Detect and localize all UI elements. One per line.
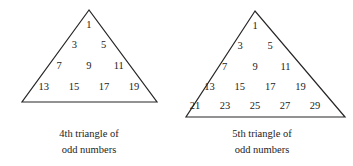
number-3: 3 (60, 40, 89, 51)
number-row: 7911 (44, 61, 134, 72)
number-9: 9 (240, 62, 271, 73)
number-1: 1 (240, 21, 270, 32)
triangle-shape (22, 10, 157, 102)
number-row: 2123252729 (180, 101, 330, 112)
number-row: 1 (240, 21, 270, 32)
caption-line-1: 4th triangle of (9, 126, 169, 142)
number-19: 19 (119, 82, 149, 93)
figure-caption: 4th triangle of odd numbers (9, 126, 169, 157)
number-row: 35 (225, 41, 285, 52)
triangle-outline-fifth (0, 0, 353, 166)
number-27: 27 (270, 101, 300, 112)
number-7: 7 (209, 62, 240, 73)
number-13: 13 (194, 82, 224, 93)
number-1: 1 (74, 20, 103, 31)
number-21: 21 (180, 101, 210, 112)
caption-line-2: odd numbers (9, 142, 169, 158)
number-5: 5 (255, 41, 285, 52)
number-13: 13 (29, 82, 59, 93)
number-11: 11 (270, 62, 301, 73)
triangle-shape (186, 11, 345, 117)
number-row: 13151719 (194, 82, 316, 93)
number-29: 29 (300, 101, 330, 112)
figure-caption: 5th triangle of odd numbers (182, 126, 342, 157)
number-3: 3 (225, 41, 255, 52)
number-5: 5 (89, 40, 118, 51)
number-19: 19 (285, 82, 315, 93)
number-15: 15 (59, 82, 89, 93)
number-25: 25 (240, 101, 270, 112)
number-row: 13151719 (29, 82, 149, 93)
number-row: 1 (74, 20, 103, 31)
number-17: 17 (89, 82, 119, 93)
number-15: 15 (225, 82, 255, 93)
number-row: 35 (60, 40, 119, 51)
number-row: 7911 (209, 62, 301, 73)
caption-line-2: odd numbers (182, 142, 342, 158)
diagram-canvas: 1 35 7911 13151719 4th triangle of odd n… (0, 0, 353, 166)
number-17: 17 (255, 82, 285, 93)
figure-fifth-triangle: 1 35 7911 13151719 2123252729 5th triang… (0, 0, 353, 166)
number-9: 9 (74, 61, 104, 72)
number-23: 23 (210, 101, 240, 112)
number-11: 11 (104, 61, 134, 72)
caption-line-1: 5th triangle of (182, 126, 342, 142)
number-7: 7 (44, 61, 74, 72)
figure-fourth-triangle: 1 35 7911 13151719 4th triangle of odd n… (0, 0, 353, 166)
triangle-outline-fourth (0, 0, 353, 166)
